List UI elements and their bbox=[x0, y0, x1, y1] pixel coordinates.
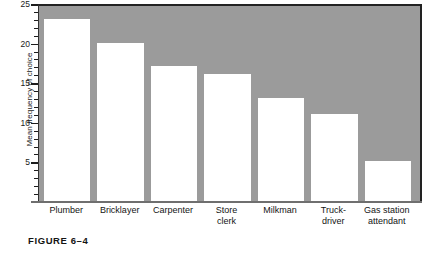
y-tick-label-10: 10 bbox=[21, 118, 30, 127]
bar-1 bbox=[44, 19, 90, 201]
bar-2 bbox=[97, 43, 143, 201]
y-tick-label-5: 5 bbox=[25, 158, 30, 167]
y-axis-tick-labels: 510152025 bbox=[10, 0, 30, 205]
y-tick-label-15: 15 bbox=[21, 79, 30, 88]
x-axis-baseline bbox=[31, 201, 422, 203]
x-label-7: Gas stationattendant bbox=[350, 205, 424, 227]
y-tick-label-20: 20 bbox=[21, 39, 30, 48]
x-label-line: clerk bbox=[190, 216, 264, 227]
y-tick-label-25: 25 bbox=[21, 0, 30, 9]
x-label-line: Gas station bbox=[350, 205, 424, 216]
bar-4 bbox=[204, 74, 250, 201]
figure-caption: FIGURE 6–4 bbox=[28, 235, 88, 246]
x-axis-category-labels: PlumberBricklayerCarpenterStoreclerkMilk… bbox=[38, 205, 422, 235]
bar-6 bbox=[311, 114, 357, 201]
bar-7 bbox=[365, 161, 411, 201]
x-label-line: attendant bbox=[350, 216, 424, 227]
figure-6-4: Mean frequency of choice 510152025 Plumb… bbox=[0, 0, 424, 253]
bar-3 bbox=[151, 66, 197, 201]
plot-area bbox=[38, 4, 422, 202]
bar-5 bbox=[258, 98, 304, 201]
bars-layer bbox=[39, 6, 420, 201]
